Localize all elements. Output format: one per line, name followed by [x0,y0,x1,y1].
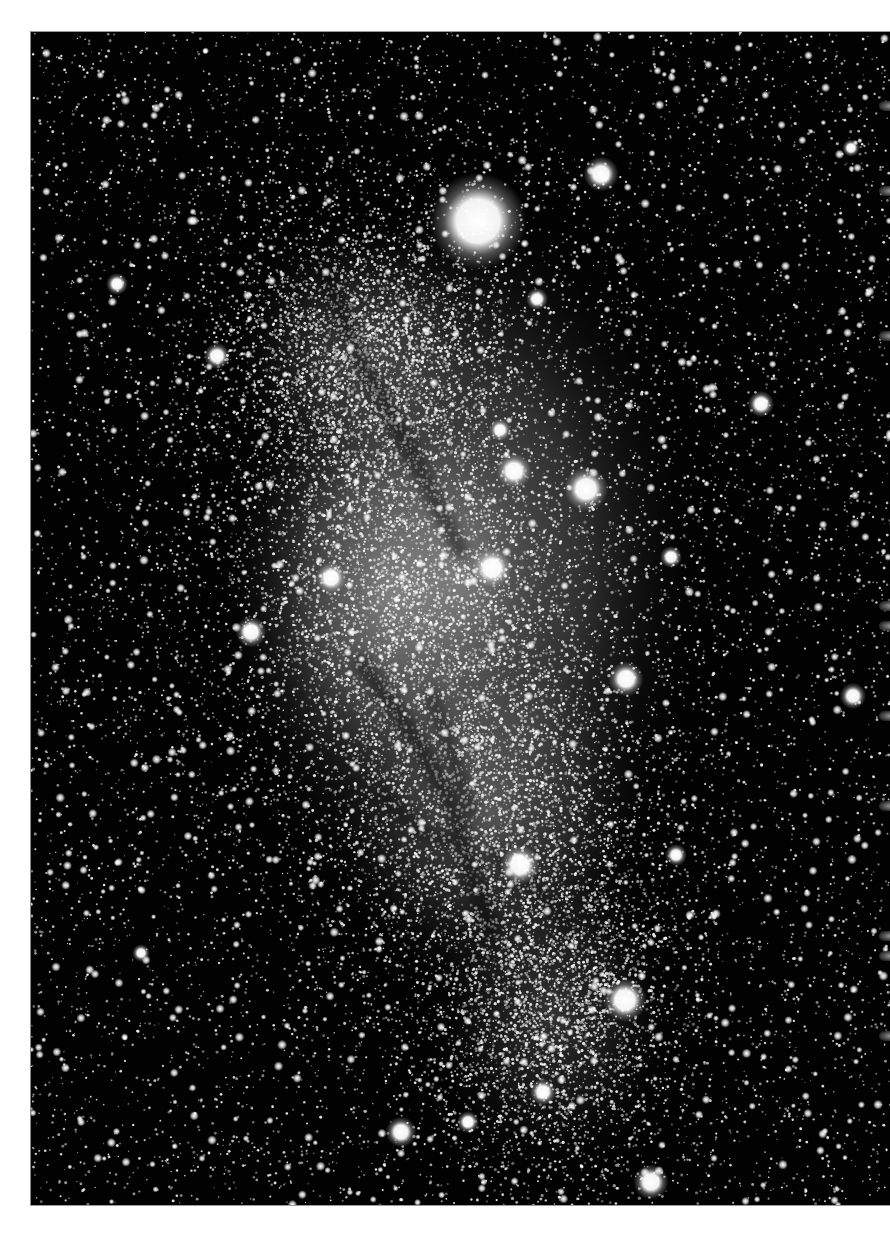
edge-shadow-mark [879,331,890,341]
page-background: Black-and-white astronomical photograph … [0,0,890,1238]
star-field-canvas [31,32,890,1205]
edge-shadow-mark [879,931,890,941]
edge-shadow-mark [879,621,890,631]
edge-shadow-mark [879,951,890,961]
edge-shadow-mark [879,1031,890,1041]
galaxy-photograph: Black-and-white astronomical photograph … [30,31,890,1206]
edge-shadow-mark [879,101,890,111]
edge-shadow-mark [879,186,890,196]
edge-shadow-mark [879,711,890,721]
edge-shadow-mark [879,601,890,611]
edge-shadow-mark [879,801,890,811]
